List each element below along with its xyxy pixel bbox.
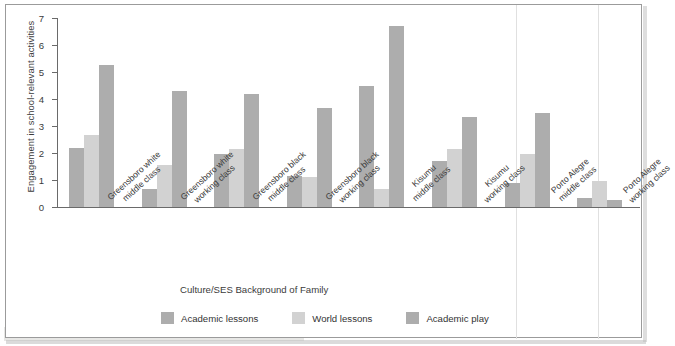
y-tick-label: 3 (39, 121, 44, 132)
legend-label: World lessons (312, 313, 372, 324)
x-axis-title: Culture/SES Background of Family (180, 284, 328, 295)
y-tick-2: 2 (52, 153, 57, 154)
y-tick-6: 6 (52, 45, 57, 46)
bar (99, 65, 114, 207)
bar (69, 148, 84, 207)
y-tick-4: 4 (52, 99, 57, 100)
y-axis-title: Engagement in school-relevant activities (25, 7, 36, 207)
legend-label: Academic play (426, 313, 488, 324)
y-tick-0: 0 (52, 207, 57, 208)
y-tick-3: 3 (52, 126, 57, 127)
bar (84, 135, 99, 207)
y-tick-label: 6 (39, 40, 44, 51)
bar (389, 26, 404, 207)
bar-group (69, 18, 114, 207)
y-tick-5: 5 (52, 72, 57, 73)
chart-frame: Engagement in school-relevant activities… (5, 4, 642, 338)
y-tick-label: 0 (39, 202, 44, 213)
legend-swatch (292, 312, 305, 324)
legend-item[interactable]: Academic lessons (161, 312, 258, 324)
legend-label: Academic lessons (181, 313, 258, 324)
y-tick-label: 4 (39, 94, 44, 105)
legend-swatch (161, 312, 174, 324)
legend-item[interactable]: Academic play (406, 312, 488, 324)
plot-area: 01234567 Greensboro whitemiddle classGre… (57, 18, 644, 208)
chart-legend: Academic lessonsWorld lessonsAcademic pl… (161, 312, 489, 324)
y-tick-7: 7 (52, 18, 57, 19)
bar (577, 198, 592, 207)
y-tick-label: 5 (39, 67, 44, 78)
bar (142, 189, 157, 207)
page-shadow-bottom (6, 340, 646, 344)
legend-swatch (406, 312, 419, 324)
y-tick-label: 1 (39, 175, 44, 186)
y-tick-1: 1 (52, 180, 57, 181)
y-tick-label: 7 (39, 13, 44, 24)
legend-item[interactable]: World lessons (292, 312, 372, 324)
y-tick-label: 2 (39, 148, 44, 159)
